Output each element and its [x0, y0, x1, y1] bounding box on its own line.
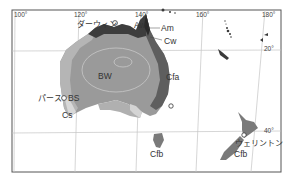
tick-lat-40: 40°	[264, 127, 274, 134]
label-cfb-nz: Cfb	[234, 149, 248, 159]
label-cfa: Cfa	[166, 72, 180, 82]
tick-lon-160: 160°	[196, 11, 210, 18]
label-wellington: ウェリントン	[235, 139, 283, 148]
label-am: Am	[161, 23, 174, 33]
label-perth: パース	[38, 94, 62, 103]
city-marker-perth	[62, 96, 67, 101]
tick-lat-20: 20°	[264, 45, 274, 52]
tick-lon-180: 180°	[262, 11, 276, 18]
label-cs: Cs	[62, 110, 72, 120]
city-marker-sydney	[169, 104, 173, 108]
label-cw: Cw	[164, 36, 177, 46]
climate-map: 100° 120° 140° 160° 180° 20° 40° Aw Am C…	[0, 0, 287, 179]
tick-lon-120: 120°	[74, 11, 88, 18]
label-bw: BW	[98, 71, 112, 81]
tick-lon-140: 140°	[135, 11, 149, 18]
label-bs: BS	[68, 93, 80, 103]
label-aw: Aw	[134, 20, 147, 30]
city-marker-wellington	[242, 133, 246, 137]
tick-lon-100: 100°	[14, 11, 28, 18]
label-cfb-tasmania: Cfb	[150, 149, 164, 159]
label-darwin: ダーウィン	[77, 19, 117, 29]
